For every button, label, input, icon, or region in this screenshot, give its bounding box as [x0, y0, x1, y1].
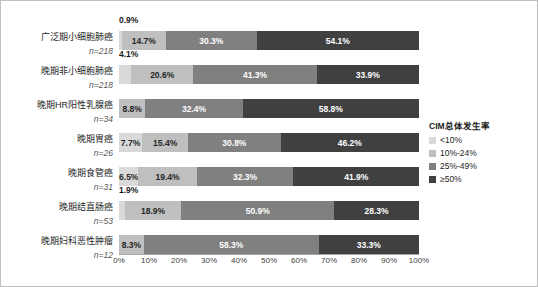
bar-segment: 18.9% [125, 201, 182, 220]
legend: CIM总体发生率 <10%10%-24%25%-49%≥50% [429, 119, 535, 187]
bar-segment: 20.6% [131, 65, 193, 84]
category-sample-size: n=53 [59, 217, 113, 226]
category-sample-size: n=31 [68, 183, 113, 192]
category-label: 晚期结直肠癌 [59, 203, 113, 212]
x-axis-tick: 100% [409, 256, 429, 265]
category-label-block: 晚期HR阳性乳腺癌n=34 [37, 101, 113, 124]
bar-row: 8.8%32.4%58.8% [119, 99, 419, 118]
bar-row: 14.7%30.3%54.1% [119, 31, 419, 50]
bar-segment: 33.3% [319, 235, 419, 254]
x-axis-tick: 30% [201, 256, 217, 265]
category-axis-labels: 广泛期小细胞肺癌n=218晚期非小细胞肺癌n=218晚期HR阳性乳腺癌n=34晚… [1, 9, 117, 254]
category-sample-size: n=218 [41, 81, 113, 90]
legend-label: ≥50% [440, 174, 462, 184]
legend-label: <10% [440, 135, 462, 145]
category-label-block: 广泛期小细胞肺癌n=218 [41, 33, 113, 56]
bar-segment: 14.7% [122, 31, 166, 50]
category-label: 晚期胃癌 [77, 135, 113, 144]
bar-segment: 46.2% [281, 133, 419, 152]
category-label-block: 晚期食管癌n=31 [68, 169, 113, 192]
bar-segment: 19.4% [138, 167, 196, 186]
category-sample-size: n=12 [41, 251, 113, 260]
bar-segment: 8.8% [119, 99, 145, 118]
bar-segment: 30.8% [188, 133, 280, 152]
legend-title: CIM总体发生率 [429, 119, 535, 131]
bar-segment: 41.9% [293, 167, 419, 186]
value-callout-label: 0.9% [119, 15, 138, 25]
category-sample-size: n=218 [41, 47, 113, 56]
category-label: 广泛期小细胞肺癌 [41, 33, 113, 42]
legend-item[interactable]: ≥50% [429, 174, 535, 184]
bar-segment: 41.3% [193, 65, 317, 84]
value-callout-label: 4.1% [119, 49, 138, 59]
bar-segment: 8.3% [119, 235, 144, 254]
x-axis-tick: 20% [171, 256, 187, 265]
bar-segment: 54.1% [257, 31, 419, 50]
category-label: 晚期HR阳性乳腺癌 [37, 101, 113, 110]
bar-segment: 33.9% [317, 65, 419, 84]
bar-segment: 58.3% [144, 235, 319, 254]
bar-row: 20.6%41.3%33.9% [119, 65, 419, 84]
legend-item[interactable]: <10% [429, 135, 535, 145]
x-axis-tick-labels: 0%10%20%30%40%50%60%70%80%90%100% [119, 256, 419, 270]
category-label: 晚期非小细胞肺癌 [41, 67, 113, 76]
x-axis-tick: 60% [291, 256, 307, 265]
bar-row: 6.5%19.4%32.3%41.9% [119, 167, 419, 186]
category-label: 晚期食管癌 [68, 169, 113, 178]
legend-label: 25%-49% [440, 161, 477, 171]
bar-segment: 58.8% [243, 99, 419, 118]
legend-swatch-icon [429, 163, 436, 170]
legend-swatch-icon [429, 176, 436, 183]
bar-segment: 50.9% [181, 201, 334, 220]
legend-swatch-icon [429, 137, 436, 144]
bar-segment: 6.5% [119, 167, 138, 186]
bar-segment: 32.3% [197, 167, 294, 186]
bar-segment: 32.4% [145, 99, 242, 118]
legend-item[interactable]: 10%-24% [429, 148, 535, 158]
category-label-block: 晚期非小细胞肺癌n=218 [41, 67, 113, 90]
x-axis-tick: 80% [351, 256, 367, 265]
plot-area: 14.7%30.3%54.1%0.9%20.6%41.3%33.9%4.1%8.… [119, 9, 419, 254]
x-axis-tick: 0% [113, 256, 125, 265]
bar-segment: 7.7% [119, 133, 142, 152]
category-label-block: 晚期胃癌n=26 [77, 135, 113, 158]
bar-row: 8.3%58.3%33.3% [119, 235, 419, 254]
category-label-block: 晚期结直肠癌n=53 [59, 203, 113, 226]
x-axis-line [119, 254, 419, 255]
category-sample-size: n=26 [77, 149, 113, 158]
bar-row: 7.7%15.4%30.8%46.2% [119, 133, 419, 152]
x-axis-tick: 70% [321, 256, 337, 265]
legend-swatch-icon [429, 150, 436, 157]
category-sample-size: n=34 [37, 115, 113, 124]
legend-item-list: <10%10%-24%25%-49%≥50% [429, 135, 535, 184]
value-callout-label: 1.9% [119, 185, 138, 195]
category-label-block: 晚期妇科恶性肿瘤n=12 [41, 237, 113, 260]
category-label: 晚期妇科恶性肿瘤 [41, 237, 113, 246]
bar-segment [119, 65, 131, 84]
x-axis-tick: 50% [261, 256, 277, 265]
x-axis-tick: 90% [381, 256, 397, 265]
bar-segment: 28.3% [334, 201, 419, 220]
legend-item[interactable]: 25%-49% [429, 161, 535, 171]
bar-segment: 30.3% [166, 31, 257, 50]
legend-label: 10%-24% [440, 148, 477, 158]
stacked-bar-chart: 广泛期小细胞肺癌n=218晚期非小细胞肺癌n=218晚期HR阳性乳腺癌n=34晚… [0, 0, 538, 287]
x-axis-tick: 10% [141, 256, 157, 265]
x-axis-tick: 40% [231, 256, 247, 265]
bar-segment: 15.4% [142, 133, 188, 152]
bar-row: 18.9%50.9%28.3% [119, 201, 419, 220]
